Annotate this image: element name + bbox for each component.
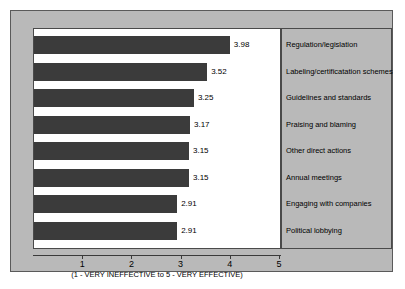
bar (34, 63, 207, 81)
x-axis-tick-label: 1 (75, 260, 89, 269)
x-axis-caption: (1 - VERY INEFFECTIVE to 5 - VERY EFFECT… (33, 271, 281, 279)
bar (34, 89, 194, 107)
bar-row: 3.17 (34, 116, 210, 134)
bar-row: 2.91 (34, 222, 197, 240)
legend-item: Engaging with companies (286, 200, 390, 208)
bar-value-label: 3.15 (193, 147, 209, 155)
chart-figure-frame: 3.983.523.253.173.153.152.912.91 Regulat… (10, 10, 393, 272)
bar-value-label: 2.91 (181, 227, 197, 235)
bar (34, 142, 189, 160)
legend-item: Regulation/legislation (286, 41, 390, 49)
legend-item: Political lobbying (286, 227, 390, 235)
legend-item: Labeling/certificatation schemes (286, 68, 390, 76)
chart-screenshot: 3.983.523.253.173.153.152.912.91 Regulat… (0, 0, 405, 289)
bar-row: 3.98 (34, 36, 249, 54)
legend-item: Annual meetings (286, 174, 390, 182)
bar (34, 195, 177, 213)
bar (34, 222, 177, 240)
bar-value-label: 2.91 (181, 200, 197, 208)
bar-row: 3.25 (34, 89, 213, 107)
bar-value-label: 3.25 (198, 94, 214, 102)
bar-value-label: 3.15 (193, 174, 209, 182)
x-axis-tick-label: 4 (223, 260, 237, 269)
x-axis-tick-label: 2 (124, 260, 138, 269)
bar (34, 169, 189, 187)
bar (34, 116, 190, 134)
bar-row: 3.52 (34, 63, 227, 81)
bar-value-label: 3.98 (234, 41, 250, 49)
bar-row: 2.91 (34, 195, 197, 213)
bar-row: 3.15 (34, 142, 209, 160)
plot-area: 3.983.523.253.173.153.152.912.91 (33, 28, 281, 249)
x-axis-tick-label: 5 (272, 260, 286, 269)
legend-item: Guidelines and standards (286, 94, 390, 102)
bar (34, 36, 230, 54)
legend-item: Other direct actions (286, 147, 390, 155)
legend-item: Praising and blaming (286, 121, 390, 129)
bars-layer: 3.983.523.253.173.153.152.912.91 (34, 29, 280, 248)
bar-value-label: 3.52 (211, 68, 227, 76)
x-axis-line (33, 255, 281, 256)
x-axis-tick-label: 3 (174, 260, 188, 269)
bar-row: 3.15 (34, 169, 209, 187)
legend-panel: Regulation/legislationLabeling/certifica… (281, 28, 392, 249)
bar-value-label: 3.17 (194, 121, 210, 129)
